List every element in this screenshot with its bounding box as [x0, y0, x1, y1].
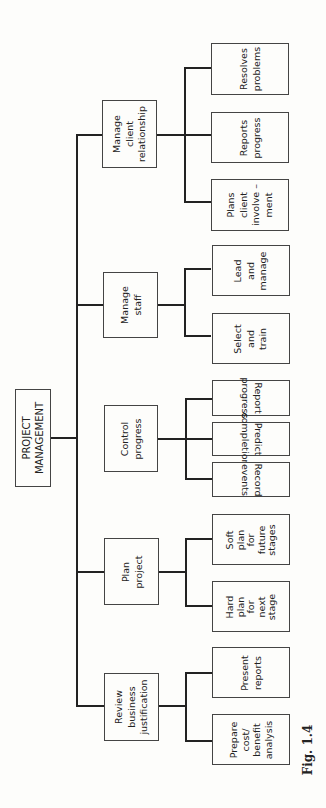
- node-label: Review business justification: [113, 679, 151, 734]
- leaf-label: Resolves problems: [238, 47, 263, 91]
- leaf-connector: [185, 478, 212, 480]
- leaf-connector: [184, 201, 211, 203]
- sub-spine: [185, 672, 187, 741]
- leaf-prepare-cost-benefit: Prepare cost/ benefit analysis: [212, 714, 290, 765]
- node-manage-client-relationship: Manage client relationship: [102, 100, 157, 168]
- leaf-label: Prepare cost/ benefit analysis: [228, 720, 274, 758]
- branch-connector: [76, 705, 104, 707]
- leaf-predict-completion: Predict completion: [212, 422, 290, 456]
- leaf-connector: [185, 672, 212, 674]
- leaf-reports-progress: Reports progress: [211, 112, 289, 163]
- sub-connector: [158, 571, 185, 573]
- node-manage-staff: Manage staff: [103, 272, 158, 338]
- leaf-resolves-problems: Resolves problems: [211, 43, 289, 95]
- node-label: Plan project: [119, 555, 144, 588]
- leaf-connector: [184, 67, 211, 69]
- leaf-label: Select and train: [232, 324, 270, 353]
- sub-connector: [158, 705, 185, 707]
- leaf-connector: [184, 335, 211, 337]
- branch-connector: [76, 571, 104, 573]
- leaf-connector: [185, 740, 212, 742]
- leaf-label: Record events: [239, 463, 264, 496]
- node-label: Manage client relationship: [111, 106, 149, 162]
- sub-connector: [157, 304, 185, 306]
- leaf-connector: [185, 398, 212, 400]
- leaf-hard-plan: Hard plan for next stage: [212, 581, 290, 632]
- node-review-business-justification: Review business justification: [104, 673, 159, 741]
- figure-caption: Fig. 1.4: [301, 724, 315, 775]
- leaf-label: Plans client involve – ment: [225, 184, 275, 226]
- root-node: PROJECT MANAGEMENT: [15, 389, 51, 487]
- node-control-progress: Control progress: [104, 405, 158, 472]
- leaf-label: Present reports: [239, 655, 264, 691]
- leaf-select-and-train: Select and train: [212, 313, 290, 364]
- sub-connector: [156, 134, 185, 136]
- sub-spine: [185, 538, 187, 606]
- leaf-connector: [185, 438, 212, 440]
- leaf-label: Hard plan for next stage: [225, 593, 278, 619]
- sub-connector: [157, 438, 185, 440]
- leaf-plans-client-involvement: Plans client involve – ment: [211, 179, 289, 231]
- leaf-connector: [184, 268, 211, 270]
- leaf-connector: [185, 605, 212, 607]
- leaf-present-reports: Present reports: [212, 647, 290, 698]
- root-label: PROJECT MANAGEMENT: [20, 402, 46, 474]
- leaf-connector: [184, 134, 211, 136]
- branch-connector: [76, 304, 103, 306]
- figure-caption-wrap: Fig. 1.4: [300, 733, 316, 766]
- leaf-lead-and-manage: Lead and manage: [212, 245, 290, 296]
- leaf-label: Reports progress: [238, 117, 263, 158]
- leaf-report-progress: Report progress: [212, 380, 290, 416]
- leaf-label: Predict completion: [239, 412, 264, 465]
- node-label: Manage staff: [118, 286, 143, 324]
- node-label: Control progress: [119, 418, 144, 459]
- node-plan-project: Plan project: [104, 538, 159, 605]
- root-connector: [50, 437, 77, 439]
- leaf-record-events: Record events: [212, 462, 290, 497]
- branch-connector: [76, 134, 103, 136]
- leaf-label: Soft plan for future stages: [225, 524, 278, 555]
- sub-spine: [184, 268, 186, 336]
- leaf-label: Lead and manage: [232, 251, 270, 290]
- main-spine: [76, 134, 78, 706]
- leaf-soft-plan: Soft plan for future stages: [212, 514, 290, 565]
- leaf-connector: [185, 538, 212, 540]
